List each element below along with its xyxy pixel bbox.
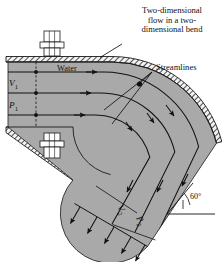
callout-title-line3: dimensional bend (124, 25, 220, 35)
water-region (8, 62, 217, 262)
callout-streamlines: Streamlines (156, 62, 197, 72)
inlet-pressure-subscript: 1 (15, 105, 18, 112)
streamlines-leader-dot (137, 81, 142, 86)
angle-label: 60° (190, 192, 201, 201)
inlet-velocity-subscript: 1 (15, 83, 18, 90)
inlet-pressure-label: P1 (9, 100, 18, 112)
title-leader (100, 44, 122, 58)
callout-title: Two-dimensional flow in a two- dimension… (124, 6, 220, 35)
bend-diagram (0, 0, 222, 262)
inlet-velocity-label: V1 (9, 78, 18, 90)
water-label: Water (57, 64, 77, 73)
bolt-top (40, 31, 64, 56)
figure-canvas: Two-dimensional flow in a two- dimension… (0, 0, 222, 262)
